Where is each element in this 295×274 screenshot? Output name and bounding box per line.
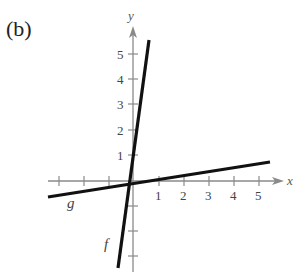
y-tick-label: 3 — [117, 97, 124, 112]
y-tick-label: 2 — [117, 123, 124, 138]
x-tick-label: 4 — [230, 188, 237, 203]
x-tick-label: 2 — [180, 188, 187, 203]
x-axis-label: x — [286, 173, 293, 188]
x-tick-labels: 1 2 3 4 5 — [155, 188, 262, 203]
f-label: f — [104, 236, 110, 252]
y-tick-label: 5 — [117, 47, 124, 62]
x-axis: x — [48, 173, 293, 188]
panel-label: (b) — [6, 16, 32, 41]
x-tick-label: 1 — [155, 188, 162, 203]
figure: (b) x 1 2 3 4 5 — [0, 0, 295, 274]
g-label: g — [67, 195, 75, 211]
y-tick-label: 4 — [117, 72, 124, 87]
graph-canvas: (b) x 1 2 3 4 5 — [0, 0, 295, 274]
x-tick-label: 5 — [255, 188, 262, 203]
y-tick-label: 1 — [117, 148, 124, 163]
y-axis-label: y — [126, 8, 134, 23]
x-tick-label: 3 — [205, 188, 212, 203]
y-tick-labels: 5 4 3 2 1 — [117, 47, 124, 163]
